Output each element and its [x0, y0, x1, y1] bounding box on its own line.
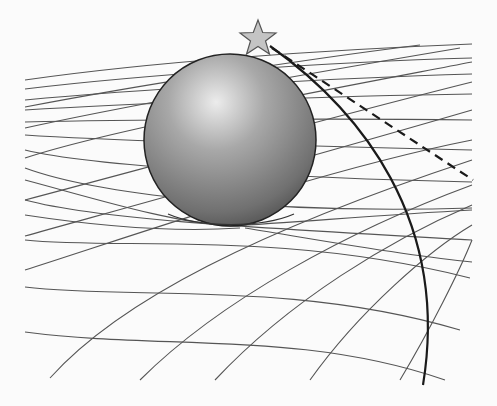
star-icon — [240, 20, 276, 54]
spacetime-diagram — [0, 0, 497, 406]
massive-sphere — [144, 54, 316, 226]
